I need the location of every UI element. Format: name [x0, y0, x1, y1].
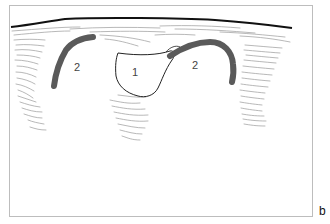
surface-line [11, 18, 292, 28]
diagram-canvas [0, 0, 330, 224]
label-region-2-left: 2 [74, 62, 80, 73]
right-arc-region-2 [170, 42, 233, 82]
label-region-2-right: 2 [192, 60, 198, 71]
label-region-1: 1 [132, 67, 138, 78]
panel-label: b [319, 205, 326, 217]
central-shape-region-1 [116, 51, 175, 97]
figure-frame [10, 6, 313, 217]
